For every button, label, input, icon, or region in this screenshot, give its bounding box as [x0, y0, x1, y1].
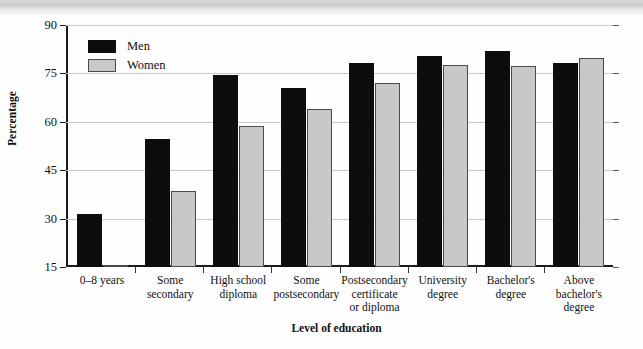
x-axis-category-label: 0–8 years — [68, 274, 136, 315]
x-axis-tick — [476, 267, 477, 273]
legend: Men Women — [88, 37, 166, 75]
y-axis-tick-right — [613, 25, 619, 26]
page-scan-top-strip-shadow — [0, 12, 643, 16]
bar-group — [341, 25, 409, 267]
bar-women[interactable] — [511, 66, 536, 267]
x-axis-category-label-line: or diploma — [341, 301, 409, 315]
x-axis-title: Level of education — [291, 322, 381, 334]
y-axis-tick-right — [613, 267, 619, 268]
y-axis-tick-label: 30 — [45, 211, 58, 226]
y-axis-tick-label: 45 — [45, 163, 58, 178]
x-axis-category-label: Somesecondary — [136, 274, 204, 315]
legend-swatch-men-icon — [88, 40, 116, 53]
bar-women[interactable] — [171, 191, 196, 267]
y-axis-tick-label: 60 — [45, 114, 58, 129]
x-axis-category-label-line: Above — [545, 274, 613, 288]
x-axis-category-label-line: University — [409, 274, 477, 288]
y-axis-tick — [60, 170, 66, 171]
bar-group — [204, 25, 272, 267]
y-axis-tick-right — [613, 219, 619, 220]
legend-label-men: Men — [127, 39, 150, 54]
y-axis-tick — [60, 25, 66, 26]
y-axis-tick-right — [613, 73, 619, 74]
x-axis-category-label: High schooldiploma — [204, 274, 272, 315]
bar-women[interactable] — [307, 109, 332, 267]
y-axis-tick — [60, 122, 66, 123]
bar-women[interactable] — [375, 83, 400, 267]
x-axis-category-label-line: Postsecondary — [341, 274, 409, 288]
legend-label-women: Women — [127, 58, 166, 73]
bar-men[interactable] — [553, 63, 578, 267]
x-axis-tick — [408, 267, 409, 273]
bar-pair — [281, 88, 332, 267]
legend-item-men: Men — [88, 37, 166, 56]
y-axis-tick-right — [613, 122, 619, 123]
x-axis-category-label: Somepostsecondary — [272, 274, 340, 315]
x-axis-category-label-line: diploma — [204, 288, 272, 302]
x-axis-category-label: Abovebachelor'sdegree — [545, 274, 613, 315]
bar-men[interactable] — [485, 51, 510, 267]
bar-men[interactable] — [349, 63, 374, 267]
x-axis-tick — [135, 267, 136, 273]
x-axis-tick — [203, 267, 204, 273]
x-axis-category-label-line: Some — [136, 274, 204, 288]
y-axis-tick-label: 75 — [45, 66, 58, 81]
bar-pair — [77, 214, 128, 267]
x-axis-category-label-line: Bachelor's — [477, 274, 545, 288]
bar-pair — [417, 56, 468, 267]
x-axis-category-label-line: degree — [545, 301, 613, 315]
bar-pair — [349, 63, 400, 267]
x-axis-tick — [271, 267, 272, 273]
x-axis-category-label-line: degree — [477, 288, 545, 302]
x-axis-category-label-line: postsecondary — [272, 288, 340, 302]
x-axis-category-label: Bachelor'sdegree — [477, 274, 545, 315]
bar-pair — [145, 139, 196, 267]
x-axis-category-label-line: degree — [409, 288, 477, 302]
bar-group — [477, 25, 545, 267]
bar-men[interactable] — [145, 139, 170, 267]
y-axis-title: Percentage — [6, 91, 18, 146]
bar-men[interactable] — [281, 88, 306, 267]
bar-group — [409, 25, 477, 267]
bar-group — [545, 25, 613, 267]
x-axis-category-label: Postsecondarycertificateor diploma — [341, 274, 409, 315]
chart-figure: Percentage 153045607590 0–8 yearsSomesec… — [0, 0, 643, 349]
bar-women[interactable] — [443, 65, 468, 267]
x-axis-tick — [340, 267, 341, 273]
x-axis-category-labels: 0–8 yearsSomesecondaryHigh schooldiploma… — [68, 274, 613, 315]
page-scan-top-strip — [0, 0, 643, 12]
x-axis-category-label-line: certificate — [341, 288, 409, 302]
y-axis-tick-label: 90 — [45, 18, 58, 33]
x-axis-category-label-line: High school — [204, 274, 272, 288]
x-axis-tick — [544, 267, 545, 273]
y-axis-tick — [60, 73, 66, 74]
x-axis-category-label-line: Some — [272, 274, 340, 288]
legend-item-women: Women — [88, 56, 166, 75]
bar-group — [272, 25, 340, 267]
bar-pair — [485, 51, 536, 267]
bar-men[interactable] — [213, 75, 238, 267]
bar-women[interactable] — [579, 58, 604, 267]
bar-women[interactable] — [239, 126, 264, 267]
x-axis-category-label: Universitydegree — [409, 274, 477, 315]
bar-women[interactable] — [103, 265, 128, 267]
x-axis-category-label-line: bachelor's — [545, 288, 613, 302]
legend-swatch-women-icon — [88, 59, 116, 72]
bar-men[interactable] — [77, 214, 102, 267]
bar-pair — [553, 58, 604, 267]
y-axis-tick — [60, 219, 66, 220]
y-axis-tick-right — [613, 170, 619, 171]
bar-pair — [213, 75, 264, 267]
y-axis-tick — [60, 267, 66, 268]
x-axis-title-wrap: Level of education — [0, 322, 643, 334]
y-axis-tick-label: 15 — [45, 260, 58, 275]
x-axis-category-label-line: 0–8 years — [68, 274, 136, 288]
bar-men[interactable] — [417, 56, 442, 267]
x-axis-category-label-line: secondary — [136, 288, 204, 302]
